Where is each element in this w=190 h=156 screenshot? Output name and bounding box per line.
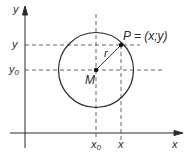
center-label-m: M: [85, 74, 95, 86]
tick-label-y0: y0: [9, 64, 19, 77]
tick-label-x0: x0: [91, 139, 101, 152]
tick-label-x: x: [118, 139, 124, 150]
y-axis-arrow-icon: [23, 6, 28, 15]
y-axis-label: y: [13, 4, 19, 15]
point-label-p: P = (x;y): [123, 30, 168, 42]
radius-line: [96, 45, 121, 70]
point-p: [119, 43, 123, 47]
radius-label-r: r: [104, 48, 108, 59]
tick-label-y: y: [12, 39, 18, 50]
x-axis-arrow-icon: [174, 131, 183, 136]
center-point-m: [94, 68, 98, 72]
diagram-canvas: [0, 0, 190, 156]
x-axis-label: x: [172, 139, 178, 150]
